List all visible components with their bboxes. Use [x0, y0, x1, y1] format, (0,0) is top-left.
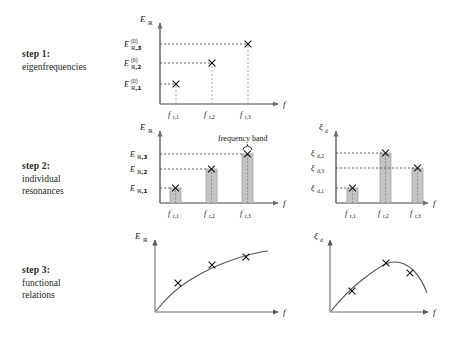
step1-y-axis-label-sub: ℝ	[148, 20, 153, 26]
step2right-y-tick-1: ξ d,1	[311, 184, 324, 194]
step1-x-tick-1-base: f	[168, 110, 172, 119]
panel-step3-right: ξ d f	[314, 231, 437, 317]
step1-x-tick-2-base: f	[204, 110, 208, 119]
step3right-marker-3	[407, 270, 414, 277]
step2left-x-tick-3-sub: r,3	[245, 213, 251, 219]
step1-y-tick-3-base: E	[123, 40, 129, 49]
figure-root: step 1: eigenfrequencies step 2: individ…	[0, 0, 453, 337]
step1-y-tick-1-base: E	[123, 80, 129, 89]
step2right-x-tick-1-base: f	[345, 209, 349, 218]
step3left-marker-3	[243, 254, 250, 261]
step2left-y-tick-3-sub: ℝ,3	[137, 154, 148, 160]
panel-step2-right: ξ d f	[311, 122, 437, 219]
step3left-marker-2	[209, 262, 216, 269]
step2left-y-tick-2-sub: ℝ,2	[137, 169, 148, 175]
step1-x-tick-2: f r,2	[204, 110, 215, 120]
panel-step2-left: E ℝ f	[129, 122, 287, 219]
step2right-x-tick-2-base: f	[378, 209, 382, 218]
step2right-x-tick-2-sub: r,2	[383, 213, 389, 219]
step1-y-tick-1: E (0) ℝ,1	[123, 78, 142, 91]
step2right-x-tick-1-sub: r,1	[350, 213, 356, 219]
step2left-y-tick-1-base: E	[129, 184, 135, 193]
step1-y-tick-2: E (0) ℝ,2	[123, 57, 142, 70]
step2left-x-tick-3-base: f	[240, 209, 244, 218]
step2right-y-tick-2: ξ d,2	[311, 149, 324, 159]
step1-y-axis-label-base: E	[139, 14, 146, 24]
step2left-x-axis-label: f	[283, 198, 287, 208]
step1-x-axis-label: f	[283, 99, 287, 109]
step2left-x-tick-2: f r,2	[204, 209, 215, 219]
step2right-y-tick-1-base: ξ	[311, 184, 315, 193]
step2left-x-tick-1-base: f	[168, 209, 172, 218]
diagram-svg: E ℝ f	[0, 0, 453, 337]
step3right-y-axis-label-base: ξ	[314, 231, 318, 241]
step1-y-tick-2-sup: (0)	[131, 57, 138, 64]
step3right-y-axis-label-sub: d	[320, 237, 323, 243]
step1-x-tick-3-sub: r,3	[245, 114, 251, 120]
step2left-y-tick-1-sub: ℝ,1	[137, 188, 148, 194]
frequency-band-brace-icon	[243, 144, 252, 150]
step2right-y-tick-2-sub: d,2	[317, 153, 324, 159]
step2left-y-axis-label: E ℝ	[139, 122, 153, 134]
step1-x-tick-2-sub: r,2	[209, 114, 215, 120]
step3right-data-markers	[349, 260, 414, 295]
step3left-x-axis-label: f	[283, 307, 287, 317]
step2left-x-tick-1-sub: r,1	[173, 213, 179, 219]
step2right-x-tick-3-sub: r,3	[415, 213, 421, 219]
step3right-curve	[331, 262, 427, 311]
step2right-y-tick-2-base: ξ	[311, 149, 315, 158]
step1-y-tick-1-sup: (0)	[131, 78, 138, 85]
step2right-x-tick-3: f r,3	[410, 209, 421, 219]
step3left-marker-1	[175, 280, 182, 287]
step2left-y-tick-3: E ℝ,3	[129, 150, 148, 160]
step1-y-tick-3-sub: ℝ,3	[131, 45, 142, 51]
step2left-y-tick-2: E ℝ,2	[129, 165, 148, 175]
step2right-x-tick-2: f r,2	[378, 209, 389, 219]
step1-y-tick-2-sub: ℝ,2	[131, 64, 142, 70]
frequency-band-annotation: frequency band	[218, 134, 268, 143]
step1-y-axis-label: E ℝ	[139, 14, 153, 26]
step3left-data-markers	[175, 254, 250, 287]
step3left-y-axis-label-sub: ℝ	[143, 237, 148, 243]
step1-y-tick-1-sub: ℝ,1	[131, 85, 142, 91]
step3left-curve	[156, 251, 268, 311]
step2right-y-axis-label: ξ d	[319, 122, 328, 134]
step3right-y-axis-label: ξ d	[314, 231, 323, 243]
step2right-y-tick-3: ξ d,3	[311, 164, 324, 174]
step2left-y-tick-1: E ℝ,1	[129, 184, 148, 194]
step1-x-tick-1-sub: r,1	[173, 114, 179, 120]
step1-x-tick-3: f r,3	[240, 110, 251, 120]
step3left-y-axis-label: E ℝ	[134, 231, 148, 243]
step3right-x-axis-label: f	[433, 307, 437, 317]
panel-step1: E ℝ f	[123, 14, 287, 120]
step2left-y-axis-label-sub: ℝ	[148, 128, 153, 134]
step2left-x-tick-1: f r,1	[168, 209, 179, 219]
step1-y-tick-3: E (0) ℝ,3	[123, 38, 142, 51]
step2left-y-axis-label-base: E	[139, 122, 146, 132]
step2right-x-tick-1: f r,1	[345, 209, 356, 219]
step1-y-tick-2-base: E	[123, 59, 129, 68]
step2right-y-axis-label-sub: d	[325, 128, 328, 134]
step2right-y-tick-1-sub: d,1	[317, 188, 324, 194]
step2left-y-tick-2-base: E	[129, 165, 135, 174]
step2left-x-tick-3: f r,3	[240, 209, 251, 219]
step1-x-tick-3-base: f	[240, 110, 244, 119]
step1-y-tick-3-sup: (0)	[131, 38, 138, 45]
step1-x-tick-1: f r,1	[168, 110, 179, 120]
step2left-y-tick-3-base: E	[129, 150, 135, 159]
panel-step3-left: E ℝ f	[134, 231, 287, 317]
step2right-x-axis-label: f	[433, 198, 437, 208]
step2right-bars	[347, 153, 423, 203]
step2right-x-tick-3-base: f	[410, 209, 414, 218]
step2right-y-tick-3-base: ξ	[311, 164, 315, 173]
step2right-y-tick-3-sub: d,3	[317, 168, 324, 174]
step2right-y-axis-label-base: ξ	[319, 122, 323, 132]
step3left-y-axis-label-base: E	[134, 231, 141, 241]
step2left-x-tick-2-sub: r,2	[209, 213, 215, 219]
step2left-x-tick-2-base: f	[204, 209, 208, 218]
